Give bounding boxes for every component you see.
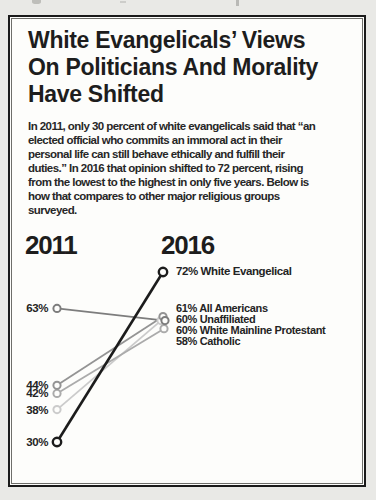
left-value-label: 38% xyxy=(26,404,48,416)
data-point xyxy=(161,317,168,324)
data-point xyxy=(159,268,167,276)
left-value-label: 30% xyxy=(26,436,48,448)
scanned-infographic: { "scan": { "outer_bg": "#e9e9e6", "card… xyxy=(0,0,376,500)
scan-artifact xyxy=(32,0,41,4)
slope-chart: 38%42%44%63%30% xyxy=(10,17,364,485)
data-point xyxy=(53,438,61,446)
data-point xyxy=(53,390,60,397)
slope-line xyxy=(57,321,161,410)
slope-line xyxy=(57,329,164,394)
infographic-card: White Evangelicals’ Views On Politicians… xyxy=(8,15,366,487)
right-label-group: 61% All Americans 60% Unaffiliated 60% W… xyxy=(176,303,325,347)
scan-artifact xyxy=(120,1,126,3)
slope-line xyxy=(57,317,163,386)
scan-artifact xyxy=(236,0,239,6)
label-white-evangelical: 72% White Evangelical xyxy=(176,266,292,277)
slope-line xyxy=(57,272,163,442)
data-point xyxy=(53,406,60,413)
left-value-label: 44% xyxy=(26,379,48,391)
data-point xyxy=(160,325,167,332)
slope-line xyxy=(57,308,165,320)
data-point xyxy=(53,382,60,389)
left-value-label: 63% xyxy=(26,302,48,314)
data-point xyxy=(53,305,60,312)
label-catholic: 58% Catholic xyxy=(176,336,325,347)
